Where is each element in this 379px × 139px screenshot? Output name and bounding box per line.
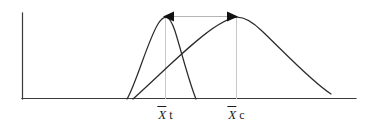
control-distribution-curve	[133, 17, 331, 99]
mean-subscript-t: t	[169, 108, 172, 122]
distribution-comparison-figure: Xt Xc	[0, 0, 379, 139]
arrow-head-left-icon	[163, 12, 174, 22]
axis-label-control-mean: Xc	[227, 108, 244, 121]
figure-canvas	[0, 0, 379, 139]
mean-symbol-x-bar: X	[227, 108, 237, 121]
mean-symbol-x-bar: X	[157, 108, 167, 121]
treatment-distribution-curve	[127, 17, 196, 99]
mean-subscript-c: c	[239, 108, 244, 122]
axis-label-treatment-mean: Xt	[157, 108, 172, 121]
